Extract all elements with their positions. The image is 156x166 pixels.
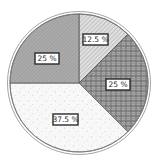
label-12-5-text: 12.5 %	[82, 35, 108, 44]
label-37-5-text: 37.5 %	[52, 115, 78, 124]
label-25-left-text: 25 %	[37, 54, 56, 63]
pie-chart: 12.5 % 25 % 37.5 % 25 %	[0, 0, 156, 166]
pie-slice-25-left	[10, 14, 79, 83]
label-25-right-text: 25 %	[108, 80, 127, 89]
label-25-right: 25 %	[106, 79, 130, 90]
label-37-5: 37.5 %	[52, 114, 78, 125]
label-25-left: 25 %	[35, 53, 59, 64]
label-12-5: 12.5 %	[82, 34, 108, 45]
